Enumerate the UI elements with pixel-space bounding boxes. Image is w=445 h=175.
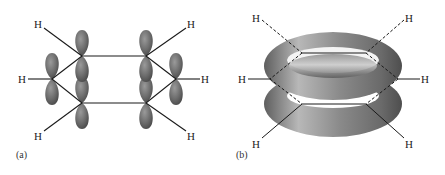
- hydrogen-label: H: [252, 138, 260, 150]
- panel-a: H H H H H H (a): [16, 18, 209, 161]
- hydrogen-label: H: [34, 18, 42, 30]
- ch-bonds: [28, 28, 200, 131]
- hydrogen-label: H: [34, 130, 42, 142]
- benzene-figure: H H H H H H (a): [0, 0, 445, 175]
- hydrogen-label: H: [201, 73, 209, 85]
- panel-caption-a: (a): [16, 149, 27, 161]
- hydrogen-label: H: [18, 73, 26, 85]
- hydrogen-label: H: [405, 138, 413, 150]
- panel-b: H H H H H H (b): [236, 12, 429, 161]
- hydrogen-label: H: [238, 73, 246, 85]
- hydrogen-label: H: [187, 130, 195, 142]
- ring-bonds: [52, 56, 176, 103]
- panel-caption-b: (b): [236, 149, 248, 161]
- hydrogen-label: H: [405, 12, 413, 24]
- hydrogen-label: H: [187, 18, 195, 30]
- hydrogen-label: H: [421, 73, 429, 85]
- hydrogen-label: H: [252, 12, 260, 24]
